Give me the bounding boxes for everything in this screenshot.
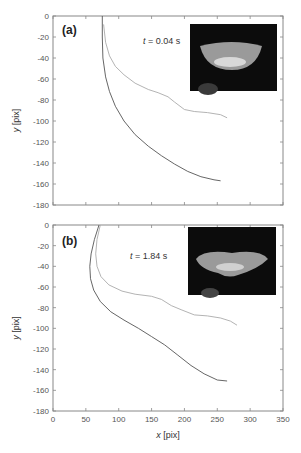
y-tick-label: -20 (37, 33, 49, 42)
panel-label: (a) (62, 23, 77, 37)
x-tick-label: 350 (276, 415, 290, 424)
time-annotation: t = 1.84 s (130, 251, 168, 261)
y-tick-label: -100 (33, 117, 50, 126)
x-tick-label: 50 (81, 415, 90, 424)
x-tick-label: 0 (51, 415, 56, 424)
x-tick-label: 250 (211, 415, 225, 424)
time-annotation: t = 0.04 s (143, 36, 181, 46)
y-tick-label: -160 (33, 180, 50, 189)
y-tick-label: -100 (33, 324, 50, 333)
y-tick-label: -140 (33, 366, 50, 375)
y-axis-label: y [pix] (11, 109, 21, 134)
y-tick-label: -180 (33, 407, 50, 416)
jellyfish-inset-image (190, 24, 277, 95)
jellyfish-inset-image (188, 227, 276, 298)
x-axis-label: x [pix] (155, 430, 180, 440)
y-tick-label: -120 (33, 345, 50, 354)
y-tick-label: -180 (33, 201, 50, 210)
y-tick-label: -140 (33, 159, 50, 168)
y-axis-label: y [pix] (11, 316, 21, 341)
x-tick-label: 150 (145, 415, 159, 424)
chart-panel-b: 0501001502002503003500-20-40-60-80-100-1… (11, 221, 290, 440)
y-tick-label: -120 (33, 138, 50, 147)
x-tick-label: 300 (243, 415, 257, 424)
y-tick-label: 0 (45, 221, 50, 230)
y-tick-label: -160 (33, 386, 50, 395)
y-tick-label: -40 (37, 54, 49, 63)
y-tick-label: -60 (37, 75, 49, 84)
chart-panel-a: 0-20-40-60-80-100-120-140-160-180y [pix]… (11, 12, 283, 210)
x-tick-label: 200 (178, 415, 192, 424)
panel-label: (b) (62, 234, 77, 248)
y-tick-label: -80 (37, 96, 49, 105)
y-tick-label: -20 (37, 242, 49, 251)
x-tick-label: 100 (112, 415, 126, 424)
y-tick-label: 0 (45, 12, 50, 21)
y-tick-label: -40 (37, 262, 49, 271)
y-tick-label: -60 (37, 283, 49, 292)
y-tick-label: -80 (37, 304, 49, 313)
figure: 0-20-40-60-80-100-120-140-160-180y [pix]… (0, 0, 301, 453)
